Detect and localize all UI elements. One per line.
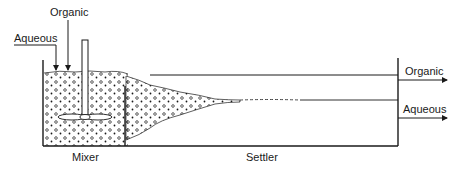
settler-label: Settler — [246, 152, 278, 163]
inlet-aqueous-label: Aqueous — [14, 33, 57, 44]
settler-dispersion-band — [126, 76, 240, 140]
outlet-organic-label: Organic — [405, 66, 444, 77]
aqueous-inlet-arrow — [14, 45, 56, 70]
mixer-label: Mixer — [72, 152, 99, 163]
outlet-aqueous-label: Aqueous — [403, 104, 446, 115]
inlet-organic-label: Organic — [50, 7, 89, 18]
mixer-settler-diagram — [0, 0, 456, 170]
